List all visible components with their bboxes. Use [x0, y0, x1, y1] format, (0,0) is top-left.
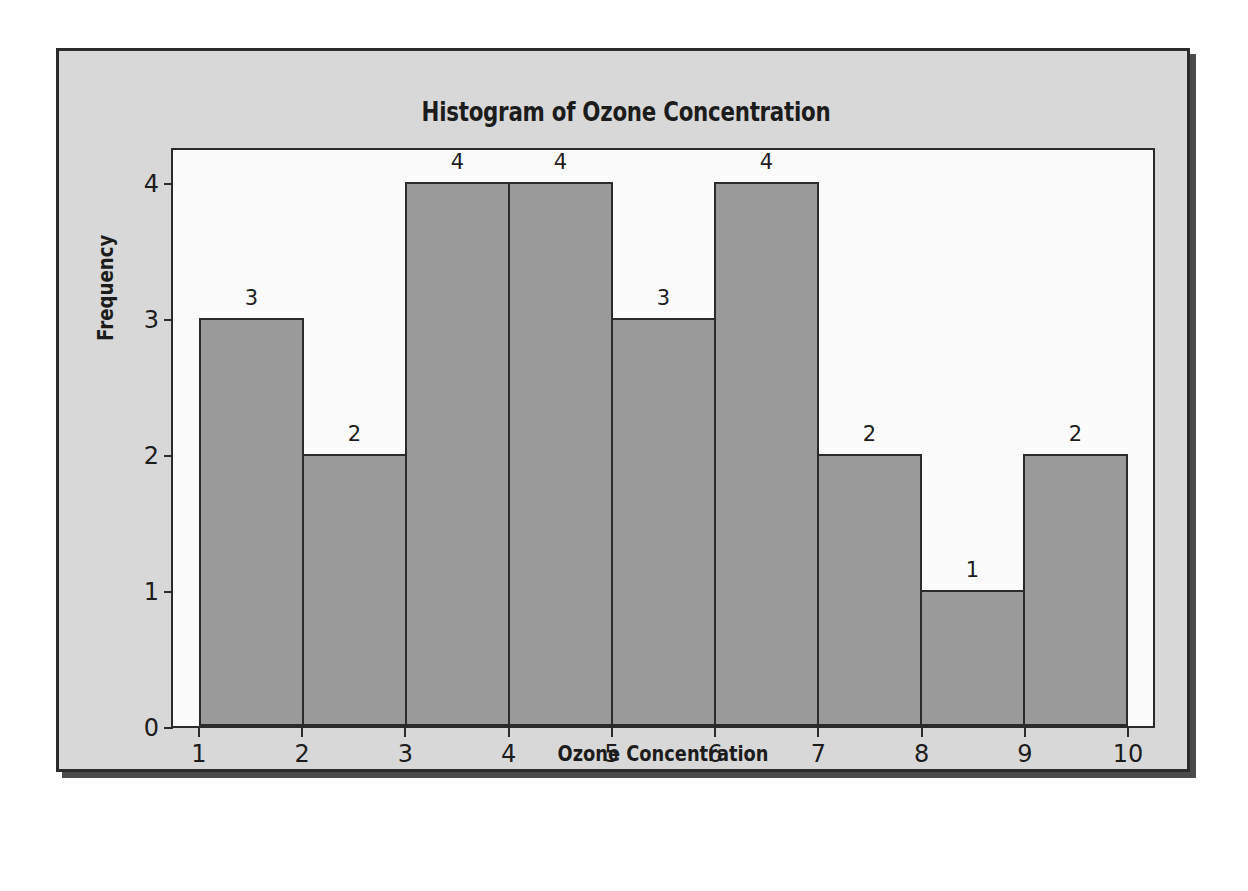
y-tick-label: 4 [113, 170, 173, 198]
histogram-bar: 3 [199, 318, 304, 726]
chart-title: Histogram of Ozone Concentration [127, 96, 1125, 127]
x-tick-mark [611, 726, 613, 737]
bar-value-label: 4 [554, 150, 567, 174]
figure-panel: Histogram of Ozone Concentration Frequen… [56, 48, 1190, 772]
y-tick-label: 2 [113, 442, 173, 470]
y-tick-label: 0 [113, 714, 173, 742]
x-tick-label: 10 [1113, 740, 1144, 768]
x-tick-mark [921, 726, 923, 737]
y-tick-label: 1 [113, 578, 173, 606]
x-tick-mark [508, 726, 510, 737]
x-tick-mark [301, 726, 303, 737]
plot-area: 01234 12345678910 324434212 [171, 148, 1155, 728]
bar-value-label: 4 [451, 150, 464, 174]
bar-value-label: 2 [1069, 422, 1082, 446]
bar-value-label: 3 [657, 286, 670, 310]
x-tick-mark [404, 726, 406, 737]
x-tick-label: 1 [191, 740, 206, 768]
histogram-bar: 4 [405, 182, 510, 726]
bar-value-label: 1 [966, 558, 979, 582]
histogram-figure: Histogram of Ozone Concentration Frequen… [0, 0, 1248, 891]
bar-value-label: 2 [348, 422, 361, 446]
bar-value-label: 2 [863, 422, 876, 446]
bar-value-label: 3 [245, 286, 258, 310]
histogram-bar: 4 [714, 182, 819, 726]
x-tick-mark [817, 726, 819, 737]
x-tick-mark [714, 726, 716, 737]
histogram-bar: 2 [1023, 454, 1128, 726]
x-tick-mark [198, 726, 200, 737]
x-tick-mark [1024, 726, 1026, 737]
x-axis-title: Ozone Concentration [220, 741, 1106, 766]
histogram-bar: 2 [302, 454, 407, 726]
bar-value-label: 4 [760, 150, 773, 174]
histogram-bar: 4 [508, 182, 613, 726]
bars-layer: 324434212 [199, 148, 1128, 726]
x-tick-mark [1127, 726, 1129, 737]
histogram-bar: 3 [611, 318, 716, 726]
histogram-bar: 2 [817, 454, 922, 726]
histogram-bar: 1 [920, 590, 1025, 726]
y-tick-label: 3 [113, 306, 173, 334]
